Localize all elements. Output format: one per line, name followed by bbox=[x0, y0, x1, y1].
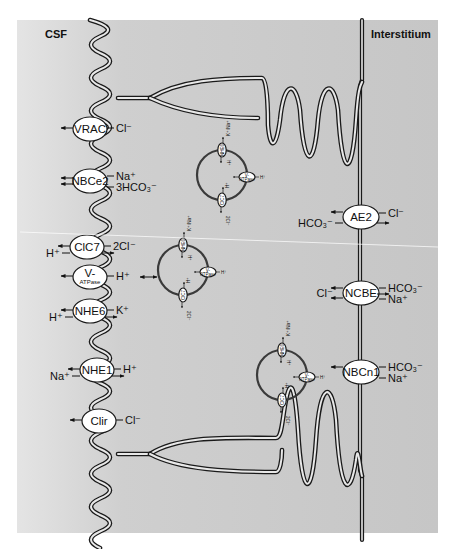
vesicle-2-nhe6: NHE6 bbox=[179, 238, 187, 252]
vesicle-1-ion-bottom-in: H⁺ bbox=[225, 182, 230, 188]
ncbe-label: NCBE bbox=[345, 287, 377, 299]
nhe6-ion-left-0: H⁺ bbox=[49, 311, 63, 323]
clc7-label: ClC7 bbox=[74, 241, 100, 253]
nhe1-ion-left-0: Na⁺ bbox=[50, 370, 70, 382]
vesicle-3-nhe6: NHE6 bbox=[278, 343, 286, 357]
vesicle-3-nhe6-label: NHE6 bbox=[280, 344, 285, 357]
vesicle-2-clc7-label: ClC7 bbox=[181, 290, 186, 300]
vesicle-1-ion-right: H⁺ bbox=[260, 175, 266, 180]
vatpase-label: V- bbox=[85, 267, 96, 279]
vesicle-3-ion-top-in: H⁺ bbox=[286, 360, 291, 366]
ae2-ion-left-0: HCO₃⁻ bbox=[298, 217, 333, 229]
vatpase-ion-0: H⁺ bbox=[116, 270, 130, 282]
ae2-label: AE2 bbox=[350, 211, 372, 223]
interstitium-label: Interstitium bbox=[371, 28, 431, 40]
nbce2-label: NBCe2 bbox=[71, 175, 108, 187]
clir-ion-0: Cl⁻ bbox=[125, 414, 141, 426]
vesicle-1-nhe6-label: NHE6 bbox=[220, 144, 225, 157]
clc7-ion-left-0: H⁺ bbox=[46, 247, 60, 259]
vrac-label: VRAC bbox=[74, 123, 106, 135]
vesicle-2-ion-top-in: H⁺ bbox=[187, 255, 192, 261]
nhe1-ion-0: H⁺ bbox=[123, 363, 137, 375]
nhe6-label: NHE6 bbox=[75, 305, 106, 317]
choroid-plexus-diagram: CSF Interstitium VRACCl⁻NBCe2Na⁺3HCO₃⁻Cl… bbox=[0, 0, 453, 549]
vesicle-2-ion-top-out: K⁺/Na⁺ bbox=[187, 215, 192, 231]
nbcn1-ion-1: Na⁺ bbox=[388, 372, 408, 384]
vesicle-1-ion-top-in: H⁺ bbox=[226, 160, 231, 166]
vesicle-3-ion-right: H⁺ bbox=[320, 375, 326, 380]
vesicle-2-ion-bottom-out: 2Cl⁻ bbox=[186, 311, 191, 321]
vesicle-3-ion-top-out: K⁺/Na⁺ bbox=[286, 320, 291, 336]
vesicle-3-clc7: ClC7 bbox=[278, 393, 286, 407]
nhe6-ion-0: K⁺ bbox=[116, 304, 129, 316]
ae2-ion-0: Cl⁻ bbox=[388, 207, 404, 219]
vesicle-3-ion-bottom-out: 2Cl⁻ bbox=[285, 416, 290, 426]
clc7-ion-0: 2Cl⁻ bbox=[113, 240, 136, 252]
vesicle-1-clc7: ClC7 bbox=[218, 193, 226, 207]
vatpase-sublabel: ATPase bbox=[80, 279, 102, 285]
ncbe-ion-left-0: Cl⁻ bbox=[317, 287, 333, 299]
vesicle-3-ion-bottom-in: H⁺ bbox=[285, 382, 290, 388]
nbcn1-label: NBCn1 bbox=[342, 366, 379, 378]
clir-label: Clir bbox=[90, 415, 107, 427]
vesicle-1-nhe6: NHE6 bbox=[218, 143, 226, 157]
vesicle-1-vatpase-sublabel: ATPase bbox=[239, 177, 255, 182]
vesicle-3-vatpase-sublabel: ATPase bbox=[299, 377, 315, 382]
vesicle-2-clc7: ClC7 bbox=[179, 288, 187, 302]
vesicle-3-clc7-label: ClC7 bbox=[280, 395, 285, 405]
nbce2-ion-1: 3HCO₃⁻ bbox=[116, 181, 157, 193]
vrac-ion-0: Cl⁻ bbox=[116, 122, 132, 134]
ncbe-ion-1: Na⁺ bbox=[388, 293, 408, 305]
vesicle-2-ion-bottom-in: H⁺ bbox=[186, 277, 191, 283]
vesicle-2-ion-right: H⁺ bbox=[221, 270, 227, 275]
nhe1-label: NHE1 bbox=[82, 364, 113, 376]
vesicle-2-nhe6-label: NHE6 bbox=[181, 239, 186, 252]
vesicle-1-ion-top-out: K⁺/Na⁺ bbox=[226, 120, 231, 136]
vesicle-2-vatpase-sublabel: ATPase bbox=[200, 272, 216, 277]
vesicle-1-ion-bottom-out: 2Cl⁻ bbox=[225, 216, 230, 226]
csf-label: CSF bbox=[45, 28, 67, 40]
vesicle-1-clc7-label: ClC7 bbox=[220, 195, 225, 205]
